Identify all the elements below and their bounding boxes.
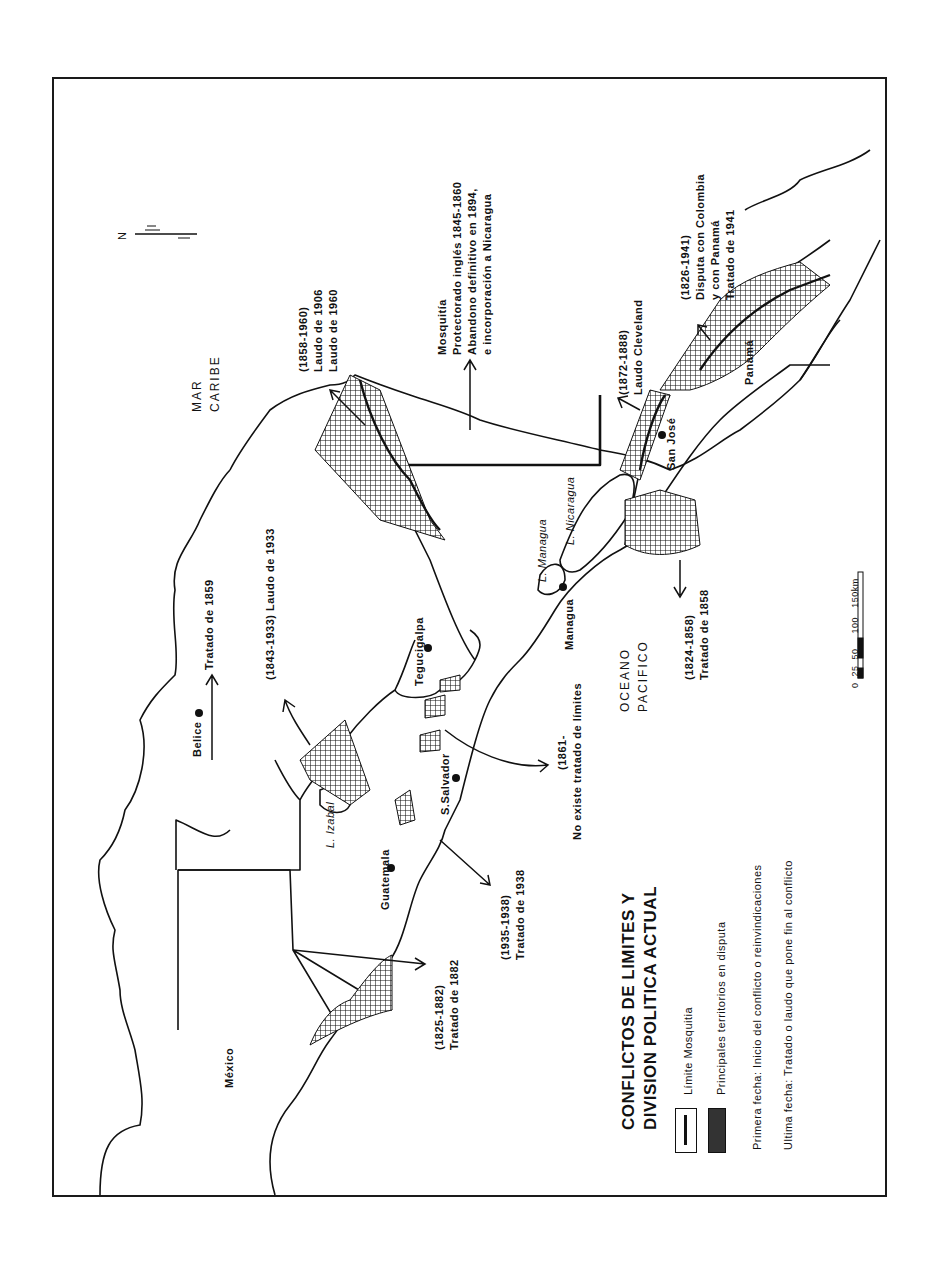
elsalvador-border	[395, 630, 480, 698]
country-label-panama: Panamá	[742, 340, 757, 385]
lake-label-managua: L. Managua	[535, 519, 550, 582]
conflict-label-elsalvador-honduras: (1861-No existe tratado de límites	[555, 683, 585, 840]
capital-dot-sansalvador	[452, 774, 460, 782]
city-label-sanjose: San José	[664, 418, 679, 470]
arrow-1859	[206, 675, 218, 760]
capital-dot-managua	[559, 583, 567, 591]
disputed-elsalvador-honduras-1	[420, 730, 440, 752]
conflict-label-mexico-guatemala: (1825-1882)Tratado de 1882	[432, 959, 462, 1050]
conflict-label-belice: Tratado de 1859	[202, 579, 217, 670]
conflict-label-guatemala-honduras: (1843-1933) Laudo de 1933	[263, 528, 278, 680]
legend-swatch-mosquitia	[675, 1108, 697, 1153]
disputed-elsalvador-honduras-3	[440, 675, 460, 692]
city-label-tegucigalpa: Tegucigalpa	[412, 617, 427, 686]
north-label: N	[115, 232, 130, 240]
map-title: CONFLICTOS DE LIMITES YDIVISION POLITICA…	[618, 886, 662, 1130]
arrow-cleveland	[618, 396, 640, 410]
city-label-guatemala: Guatemala	[378, 849, 393, 910]
arrow-1882	[293, 950, 425, 970]
conflict-label-guatemala-elsalvador: (1935-1938)Tratado de 1938	[498, 869, 528, 960]
arrow-mosquitia	[464, 360, 476, 430]
conflict-label-costarica-panama: (1826-1941)Disputa con Colombiay con Pan…	[678, 174, 738, 300]
scale-bar-labels: 0 25 50 100 150km	[848, 578, 863, 688]
legend-swatch-disputed	[708, 1108, 726, 1153]
city-label-belice: Belice	[190, 722, 205, 757]
conflict-label-cleveland: (1872-1888)Laudo Cleveland	[616, 299, 646, 395]
lake-label-nicaragua: L. Nicaragua	[563, 477, 578, 545]
pacific-ocean-label: OCEANOPACIFICO	[616, 640, 652, 712]
legend-note-first-date: Primera fecha: Inicio del conflicto o re…	[750, 864, 765, 1150]
caribbean-sea-label: MARCARIBE	[188, 355, 224, 412]
arrow-1933	[283, 700, 310, 745]
conflict-label-honduras-nicaragua: (1858-1960)Laudo de 1906Laudo de 1960	[296, 289, 341, 372]
panama-coastline	[745, 150, 880, 380]
legend-label-disputed: Principales territorios en disputa	[714, 921, 729, 1095]
disputed-guatemala-honduras	[300, 720, 370, 805]
disputed-guatemala-elsalvador	[395, 790, 415, 825]
disputed-guanacaste	[625, 490, 700, 554]
north-arrow-icon	[135, 226, 197, 238]
arrow-1938	[440, 840, 490, 885]
arrow-1861	[445, 730, 548, 772]
conflict-label-mosquitia: MosquitíaProtectorado inglés 1845-1860Ab…	[435, 182, 495, 355]
disputed-elsalvador-honduras-2	[425, 695, 445, 718]
legend-note-last-date: Ultima fecha: Tratado o laudo que pone f…	[781, 860, 796, 1150]
belize-border	[178, 760, 300, 870]
city-label-sansalvador: S.Salvador	[438, 753, 453, 815]
city-label-managua: Managua	[562, 599, 577, 650]
mosquitia-boundary	[390, 395, 600, 465]
legend-label-mosquitia: Límite Mosquitia	[681, 1007, 696, 1095]
conflict-label-guanacaste: (1824-1858)Tratado de 1858	[682, 589, 712, 680]
country-label-mexico: México	[222, 1048, 237, 1088]
capital-dot-belice	[195, 709, 203, 717]
lake-label-izabal: L. Izabal	[323, 802, 338, 848]
